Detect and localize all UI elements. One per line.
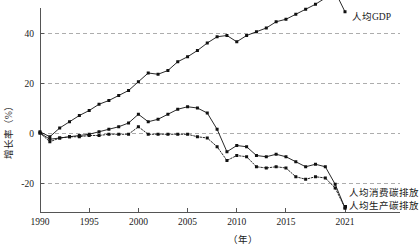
data-point-2-1994 xyxy=(78,135,81,138)
gridlines xyxy=(41,33,400,183)
data-point-1-2015 xyxy=(284,155,287,158)
data-point-1-2005 xyxy=(186,105,189,108)
data-point-2-1990 xyxy=(39,132,42,135)
data-point-2-1996 xyxy=(98,134,101,137)
data-point-0-2015 xyxy=(284,18,287,21)
data-point-1-2004 xyxy=(176,108,179,111)
tick-marks xyxy=(40,33,345,212)
data-point-0-1999 xyxy=(127,89,130,92)
data-point-0-2018 xyxy=(314,3,317,6)
data-point-1-2002 xyxy=(157,118,160,121)
data-point-1-2009 xyxy=(225,150,228,153)
data-point-1-2016 xyxy=(294,160,297,163)
x-tick-label-2005: 2005 xyxy=(178,217,197,227)
data-point-0-2013 xyxy=(265,27,268,30)
data-point-0-1998 xyxy=(117,94,120,97)
data-point-2-2008 xyxy=(216,145,219,148)
data-point-0-2021 xyxy=(344,10,347,13)
y-tick-label-40: 40 xyxy=(25,29,35,39)
data-point-1-2008 xyxy=(216,128,219,131)
data-point-1-2007 xyxy=(206,112,209,115)
data-point-2-2016 xyxy=(294,175,297,178)
data-point-2-2011 xyxy=(245,155,248,158)
tick-labels: 199019952000200520102015202140200-20 xyxy=(21,29,354,228)
data-point-0-2011 xyxy=(245,34,248,37)
data-point-1-2017 xyxy=(304,165,307,168)
data-point-1-2000 xyxy=(137,113,140,116)
data-point-0-2004 xyxy=(176,60,179,63)
data-point-2-2007 xyxy=(206,137,209,140)
data-point-0-1993 xyxy=(68,120,71,123)
data-point-1-2014 xyxy=(275,153,278,156)
data-point-2-2005 xyxy=(186,133,189,136)
data-point-2-2015 xyxy=(284,167,287,170)
data-point-2-2006 xyxy=(196,135,199,138)
data-point-2-2010 xyxy=(235,154,238,157)
x-tick-label-1990: 1990 xyxy=(31,217,50,227)
legend-marker-production xyxy=(344,205,347,208)
data-point-0-2006 xyxy=(196,49,199,52)
data-point-2-1999 xyxy=(127,133,130,136)
data-point-1-1997 xyxy=(107,128,110,131)
data-point-2-1997 xyxy=(107,133,110,136)
x-tick-label-2021: 2021 xyxy=(336,217,355,227)
data-point-1-1998 xyxy=(117,125,120,128)
data-point-0-2005 xyxy=(186,55,189,58)
y-tick-label--20: -20 xyxy=(21,179,34,189)
data-point-0-1995 xyxy=(88,109,91,112)
data-point-2-1998 xyxy=(117,133,120,136)
x-tick-label-2010: 2010 xyxy=(227,217,246,227)
data-point-0-2017 xyxy=(304,8,307,11)
x-tick-label-2015: 2015 xyxy=(276,217,295,227)
series-line-2 xyxy=(40,127,345,208)
data-point-2-1995 xyxy=(88,134,91,137)
data-point-1-1996 xyxy=(98,130,101,133)
data-point-2-2019 xyxy=(324,177,327,180)
x-axis-title: （年） xyxy=(228,234,258,245)
data-point-0-2003 xyxy=(166,69,169,72)
data-point-0-1996 xyxy=(98,103,101,106)
data-point-0-2000 xyxy=(137,80,140,83)
series-label-0: 人均GDP xyxy=(352,11,391,22)
chart-container: 199019952000200520102015202140200-20 人均G… xyxy=(0,0,419,251)
data-point-2-2020 xyxy=(334,187,337,190)
data-point-2-1992 xyxy=(58,137,61,140)
data-point-2-2012 xyxy=(255,165,258,168)
data-point-2-2017 xyxy=(304,178,307,181)
data-point-0-1992 xyxy=(58,127,61,130)
series-annotations: 人均GDP人均消费碳排放人均生产碳排放 xyxy=(344,11,419,211)
growth-rate-line-chart: 199019952000200520102015202140200-20 人均G… xyxy=(0,0,419,251)
data-point-1-2003 xyxy=(166,113,169,116)
data-point-1-2018 xyxy=(314,163,317,166)
data-point-0-1997 xyxy=(107,99,110,102)
data-point-2-2000 xyxy=(137,125,140,128)
data-point-0-2010 xyxy=(235,40,238,43)
data-point-2-1993 xyxy=(68,135,71,138)
data-point-2-2003 xyxy=(166,133,169,136)
data-point-0-2012 xyxy=(255,30,258,33)
data-point-2-2001 xyxy=(147,133,150,136)
axes xyxy=(40,8,400,212)
data-point-1-2013 xyxy=(265,155,268,158)
data-point-1-2001 xyxy=(147,120,150,123)
y-tick-label-0: 0 xyxy=(29,129,34,139)
data-point-0-2016 xyxy=(294,13,297,16)
data-point-0-2002 xyxy=(157,73,160,76)
data-point-1-2020 xyxy=(334,183,337,186)
data-point-1-2010 xyxy=(235,144,238,147)
y-tick-label-20: 20 xyxy=(25,79,35,89)
data-point-1-2006 xyxy=(196,107,199,110)
x-tick-label-1995: 1995 xyxy=(80,217,99,227)
data-point-1-2012 xyxy=(255,154,258,157)
data-point-2-2018 xyxy=(314,175,317,178)
data-point-0-2009 xyxy=(225,34,228,37)
y-axis-title: 增长率（%） xyxy=(3,101,14,159)
series-label-1: 人均消费碳排放 xyxy=(349,187,419,198)
data-series xyxy=(39,0,347,210)
x-tick-label-2000: 2000 xyxy=(129,217,148,227)
data-point-1-2019 xyxy=(324,165,327,168)
data-point-0-2001 xyxy=(147,72,150,75)
data-point-1-1999 xyxy=(127,122,130,125)
series-label-2: 人均生产碳排放 xyxy=(349,200,419,211)
data-point-2-2013 xyxy=(265,167,268,170)
